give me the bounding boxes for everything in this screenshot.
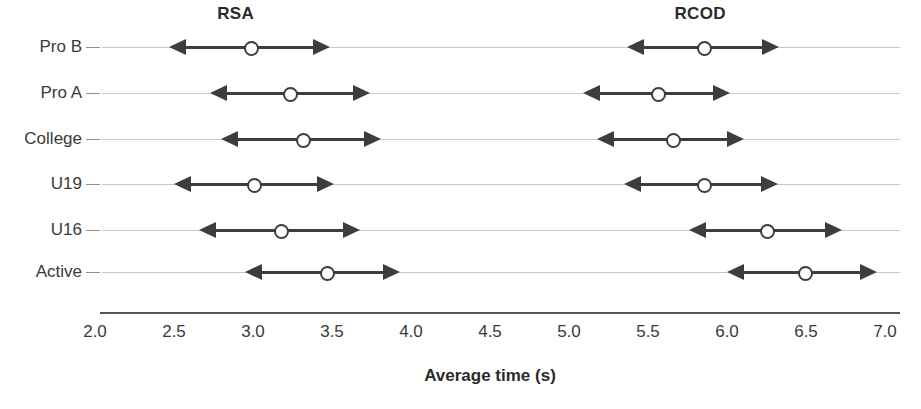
arrow-left-icon <box>199 222 216 238</box>
category-label-college: College <box>24 129 82 149</box>
category-label-active: Active <box>36 262 82 282</box>
arrow-left-icon <box>689 222 706 238</box>
arrow-right-icon <box>825 222 842 238</box>
arrow-left-icon <box>210 85 227 101</box>
x-axis-title: Average time (s) <box>424 366 556 386</box>
x-tick-label: 2.5 <box>162 322 186 342</box>
category-label-pro-a: Pro A <box>40 83 82 103</box>
x-tick-label: 6.0 <box>715 322 739 342</box>
interval-marker-rcod-pro-a <box>583 82 730 104</box>
arrow-left-icon <box>727 264 744 280</box>
arrow-right-icon <box>383 264 400 280</box>
interval-marker-rsa-u19 <box>174 173 334 195</box>
arrow-left-icon <box>169 39 186 55</box>
arrow-right-icon <box>727 131 744 147</box>
arrow-left-icon <box>221 131 238 147</box>
arrow-right-icon <box>762 39 779 55</box>
category-label-u16: U16 <box>51 220 82 240</box>
arrow-left-icon <box>245 264 262 280</box>
group-label-rcod: RCOD <box>674 4 725 24</box>
arrow-right-icon <box>713 85 730 101</box>
arrow-left-icon <box>174 176 191 192</box>
interval-marker-rcod-u19 <box>624 173 777 195</box>
arrow-right-icon <box>353 85 370 101</box>
arrow-right-icon <box>313 39 330 55</box>
interval-marker-rcod-college <box>597 128 744 150</box>
category-tick <box>86 139 100 140</box>
x-tick-label: 3.5 <box>320 322 344 342</box>
arrow-left-icon <box>597 131 614 147</box>
arrow-left-icon <box>624 176 641 192</box>
interval-marker-rsa-u16 <box>199 219 360 241</box>
interval-marker-rcod-pro-b <box>627 36 779 58</box>
x-tick-label: 3.0 <box>241 322 265 342</box>
category-tick <box>86 93 100 94</box>
mean-marker-circle <box>798 266 813 281</box>
mean-marker-circle <box>697 178 712 193</box>
mean-marker-circle <box>760 224 775 239</box>
mean-marker-circle <box>666 133 681 148</box>
chart-container: RSARCOD Pro BPro ACollegeU19U16Active 2.… <box>0 0 921 409</box>
interval-marker-rsa-pro-a <box>210 82 370 104</box>
mean-marker-circle <box>296 133 311 148</box>
mean-marker-circle <box>697 41 712 56</box>
arrow-right-icon <box>343 222 360 238</box>
mean-marker-circle <box>283 87 298 102</box>
x-tick-label: 5.0 <box>557 322 581 342</box>
x-tick-label: 7.0 <box>873 322 897 342</box>
x-axis-line <box>100 312 900 314</box>
x-tick-label: 2.0 <box>83 322 107 342</box>
category-tick <box>86 230 100 231</box>
arrow-right-icon <box>364 131 381 147</box>
interval-marker-rsa-college <box>221 128 381 150</box>
interval-marker-rcod-u16 <box>689 219 842 241</box>
interval-marker-rsa-pro-b <box>169 36 330 58</box>
arrow-right-icon <box>860 264 877 280</box>
mean-marker-circle <box>651 87 666 102</box>
x-tick-label: 4.0 <box>399 322 423 342</box>
interval-marker-rcod-active <box>727 261 877 283</box>
category-tick <box>86 47 100 48</box>
x-tick-label: 4.5 <box>478 322 502 342</box>
interval-marker-rsa-active <box>245 261 400 283</box>
category-tick <box>86 272 100 273</box>
arrow-left-icon <box>583 85 600 101</box>
x-tick-label: 5.5 <box>636 322 660 342</box>
category-tick <box>86 184 100 185</box>
mean-marker-circle <box>274 224 289 239</box>
arrow-left-icon <box>627 39 644 55</box>
group-label-rsa: RSA <box>217 4 254 24</box>
x-tick-label: 6.5 <box>794 322 818 342</box>
mean-marker-circle <box>320 266 335 281</box>
arrow-right-icon <box>761 176 778 192</box>
category-label-u19: U19 <box>51 174 82 194</box>
mean-marker-circle <box>244 41 259 56</box>
mean-marker-circle <box>247 178 262 193</box>
arrow-right-icon <box>317 176 334 192</box>
category-label-pro-b: Pro B <box>39 37 82 57</box>
